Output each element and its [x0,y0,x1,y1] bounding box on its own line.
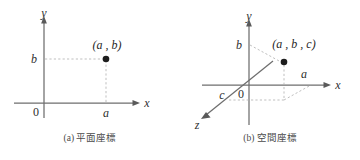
plotted-point [281,59,288,66]
figure-root: y x 0 b a (a , b) (a) 平面座標 [0,0,360,160]
x-axis-label: x [334,78,341,92]
panel-plane-coordinates: y x 0 b a (a , b) (a) 平面座標 [0,0,180,160]
y-axis-label: y [245,9,252,23]
x-value-label-a: a [301,67,307,81]
x-value-label-a: a [103,106,109,120]
panel-plane-caption: (a) 平面座標 [0,131,180,145]
space-coordinate-diagram: y x z 0 b a c (a , b , c) [180,0,360,136]
y-value-label-b: b [31,52,37,66]
origin-label: 0 [238,87,244,101]
plane-coordinate-diagram: y x 0 b a (a , b) [0,0,180,136]
panel-space-caption: (b) 空間座標 [180,131,360,145]
plotted-point [103,56,110,63]
point-coordinate-label: (a , b , c) [272,37,315,51]
x-axis-label: x [143,96,150,110]
z-value-label-c: c [219,88,225,102]
guide-projection-to-a [284,85,311,100]
x-axis-arrowhead [133,100,141,106]
y-axis-label: y [40,6,47,20]
x-axis-arrowhead [324,82,332,88]
z-axis-label: z [194,118,200,132]
panel-space-coordinates: y x z 0 b a c (a , b , c) (b) 空間座標 [180,0,360,160]
y-value-label-b: b [236,38,242,52]
point-coordinate-label: (a , b) [93,38,122,52]
origin-label: 0 [33,105,39,119]
